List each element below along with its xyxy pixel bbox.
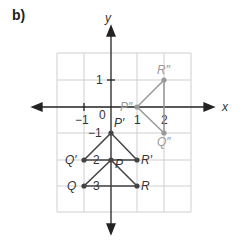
- label-r-double-prime: R″: [157, 63, 171, 77]
- tick-origin: 0: [99, 108, 106, 122]
- label-p: P: [115, 157, 123, 171]
- label-p-double-prime: P″: [120, 100, 133, 114]
- label-p-prime: P′: [114, 116, 125, 130]
- tick-y-1: 1: [96, 73, 103, 87]
- tick-y-neg1: −1: [88, 126, 102, 140]
- tick-x-neg1: −1: [75, 113, 89, 127]
- label-q-prime: Q′: [65, 153, 77, 167]
- axes: [32, 26, 214, 234]
- y-axis-label: y: [104, 11, 112, 25]
- label-r-prime: R′: [141, 153, 153, 167]
- x-axis-label: x: [221, 100, 229, 114]
- coordinate-plane: x y −1 0 1 2 1 −1 2 3 P Q R P′ Q′ R′ P″ …: [0, 0, 243, 243]
- label-q-double-prime: Q″: [157, 135, 171, 149]
- grid: [57, 53, 191, 212]
- tick-x-1: 1: [134, 113, 141, 127]
- label-q: Q: [67, 179, 76, 193]
- label-r: R: [141, 179, 150, 193]
